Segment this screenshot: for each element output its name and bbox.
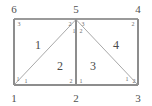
local-node-e3-v2: 2 [80,28,83,34]
local-node-e3-v3: 1 [126,76,129,82]
local-node-e3-v1: 1 [80,78,83,84]
global-node-4: 4 [135,4,141,15]
global-node-6: 6 [11,4,17,15]
element-label-3: 3 [90,60,96,72]
local-node-e4-v1: 2 [133,78,136,84]
local-node-e2-v3: 2 [70,78,73,84]
mesh-svg [0,0,152,106]
diagonal-left [15,20,77,85]
global-node-5: 5 [73,4,79,15]
element-label-1: 1 [35,39,41,51]
local-node-e1-v3: 3 [18,21,21,27]
global-node-3: 3 [135,93,141,104]
local-node-e1-v1: 1 [17,76,20,82]
mesh-interior-edges [15,19,138,85]
local-node-e4-v2: 2 [132,21,135,27]
local-node-e2-v1: 1 [73,28,76,34]
global-node-1: 1 [11,93,17,104]
element-label-2: 2 [57,60,63,72]
local-node-e2-v2: 1 [25,78,28,84]
local-node-e4-v3: 3 [82,21,85,27]
local-node-e1-v2: 2 [69,21,72,27]
element-label-4: 4 [113,39,119,51]
global-node-2: 2 [73,93,79,104]
diagonal-right [76,20,138,85]
mesh-figure: 6 5 4 1 2 3 1 2 3 4 3 2 3 2 1 2 1 1 2 1 … [0,0,152,106]
